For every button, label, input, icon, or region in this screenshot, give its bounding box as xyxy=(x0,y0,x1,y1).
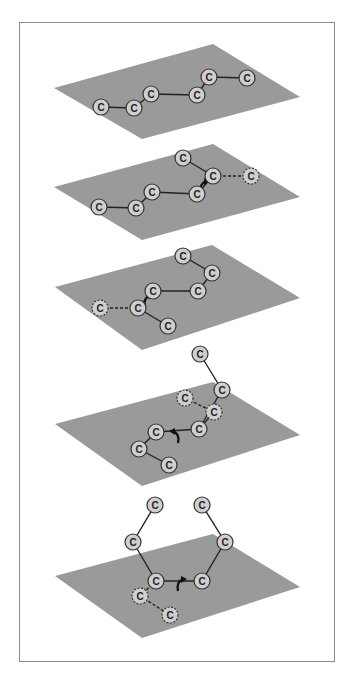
carbon-atom: C xyxy=(130,300,146,316)
carbon-atom: C xyxy=(191,421,207,437)
ghost-carbon-atom: C xyxy=(177,390,193,406)
atom-label: C xyxy=(147,89,154,100)
carbon-atom: C xyxy=(126,100,142,116)
atom-label: C xyxy=(209,171,216,182)
atom-label: C xyxy=(164,321,171,332)
panel-2: CCCCCCC xyxy=(54,144,300,240)
panel-3: CCCCCCC xyxy=(55,245,300,350)
atom-label: C xyxy=(195,424,202,435)
atom-label: C xyxy=(129,537,136,548)
carbon-atom: C xyxy=(147,497,163,513)
carbon-atom: C xyxy=(91,199,107,215)
atom-label: C xyxy=(166,610,173,621)
carbon-atom: C xyxy=(131,441,147,457)
carbon-atom: C xyxy=(205,168,221,184)
carbon-atom: C xyxy=(160,318,176,334)
atom-label: C xyxy=(179,153,186,164)
carbon-atom: C xyxy=(93,99,109,115)
carbon-atom: C xyxy=(194,573,210,589)
carbon-atom: C xyxy=(125,534,141,550)
carbon-atom: C xyxy=(204,265,220,281)
atom-label: C xyxy=(218,385,225,396)
atom-label: C xyxy=(130,103,137,114)
panel-5: CCCCCCCC xyxy=(55,497,300,638)
ghost-carbon-atom: C xyxy=(243,168,259,184)
carbon-atom: C xyxy=(189,186,205,202)
atom-label: C xyxy=(194,286,201,297)
atom-label: C xyxy=(148,187,155,198)
carbon-atom: C xyxy=(217,534,233,550)
carbon-atom: C xyxy=(143,86,159,102)
atom-label: C xyxy=(165,460,172,471)
carbon-atom: C xyxy=(214,382,230,398)
atom-label: C xyxy=(243,73,250,84)
ghost-carbon-atom: C xyxy=(92,300,108,316)
panel-1: CCCCCC xyxy=(54,44,300,139)
panel-4: CCCCCCCC xyxy=(55,346,300,486)
atom-label: C xyxy=(198,500,205,511)
carbon-atom: C xyxy=(145,283,161,299)
atom-label: C xyxy=(135,444,142,455)
carbon-atom: C xyxy=(144,184,160,200)
carbon-atom: C xyxy=(192,346,208,362)
plane xyxy=(54,44,300,139)
atom-label: C xyxy=(198,576,205,587)
carbon-atom: C xyxy=(190,283,206,299)
atom-label: C xyxy=(193,189,200,200)
carbon-atom: C xyxy=(161,457,177,473)
atom-label: C xyxy=(136,591,143,602)
carbon-atom: C xyxy=(175,248,191,264)
atom-label: C xyxy=(247,171,254,182)
ghost-carbon-atom: C xyxy=(206,404,222,420)
atom-label: C xyxy=(181,393,188,404)
atom-label: C xyxy=(134,303,141,314)
atom-label: C xyxy=(96,303,103,314)
atom-label: C xyxy=(151,500,158,511)
carbon-atom: C xyxy=(239,70,255,86)
carbon-atom: C xyxy=(194,497,210,513)
atom-label: C xyxy=(221,537,228,548)
atom-label: C xyxy=(193,90,200,101)
ghost-carbon-atom: C xyxy=(132,588,148,604)
carbon-atom: C xyxy=(189,87,205,103)
carbon-atom: C xyxy=(175,150,191,166)
atom-label: C xyxy=(179,251,186,262)
atom-label: C xyxy=(210,407,217,418)
atom-label: C xyxy=(97,102,104,113)
ghost-carbon-atom: C xyxy=(162,607,178,623)
atom-label: C xyxy=(149,286,156,297)
atom-label: C xyxy=(205,72,212,83)
atom-label: C xyxy=(152,427,159,438)
atom-label: C xyxy=(132,203,139,214)
atom-label: C xyxy=(152,576,159,587)
carbon-atom: C xyxy=(128,200,144,216)
atom-label: C xyxy=(95,202,102,213)
atom-label: C xyxy=(196,349,203,360)
molecule-rotation-diagram: CCCCCCCCCCCCCCCCCCCCCCCCCCCCCCCCCCCC xyxy=(0,0,347,687)
atom-label: C xyxy=(208,268,215,279)
carbon-atom: C xyxy=(148,424,164,440)
carbon-atom: C xyxy=(148,573,164,589)
carbon-atom: C xyxy=(201,69,217,85)
